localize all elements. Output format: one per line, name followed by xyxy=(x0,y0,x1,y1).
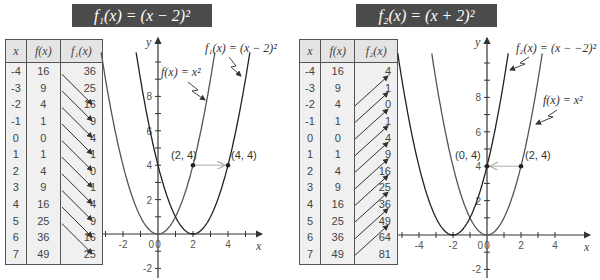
point-marker xyxy=(191,163,196,168)
x-tick-label: 2 xyxy=(518,240,524,251)
x-axis-label: x xyxy=(255,239,262,253)
mapping-arrow xyxy=(355,142,388,172)
mapping-arrow xyxy=(62,224,92,254)
mapping-arrow xyxy=(355,209,388,239)
mapping-arrow xyxy=(62,190,92,220)
mapping-arrow xyxy=(355,159,388,189)
x-tick-label: -2 xyxy=(119,239,128,250)
y-tick-label: 8 xyxy=(475,92,481,103)
shifted-curve xyxy=(398,53,508,235)
mapping-arrow xyxy=(355,109,388,139)
label-shifted: f₂(x) = (x − −2)² xyxy=(516,41,596,55)
callout-parent xyxy=(536,110,557,124)
y-axis-label: y xyxy=(145,35,152,49)
label-parent: f(x) = x² xyxy=(543,93,583,107)
mapping-arrow xyxy=(62,174,92,204)
x-axis-label: x xyxy=(583,240,590,254)
point-label-a: (0, 4) xyxy=(455,149,481,161)
x-tick-label: 0 xyxy=(484,240,490,251)
origin-label: 0 xyxy=(477,240,483,251)
y-tick-label: 4 xyxy=(475,161,481,172)
mapping-arrow xyxy=(355,93,388,123)
y-tick-label: -2 xyxy=(143,263,152,274)
mapping-arrow xyxy=(62,91,92,121)
point-marker xyxy=(485,164,490,169)
x-tick-label: -2 xyxy=(449,240,458,251)
mapping-arrow xyxy=(355,76,388,106)
mapping-arrow xyxy=(355,225,388,255)
mapping-arrow xyxy=(62,74,92,104)
y-tick-label: 6 xyxy=(475,127,481,138)
mapping-arrow xyxy=(62,207,92,237)
point-label-b: (4, 4) xyxy=(231,149,257,161)
mapping-arrow xyxy=(62,157,92,187)
point-label-b: (2, 4) xyxy=(525,149,551,161)
x-tick-label: 0 xyxy=(155,239,161,250)
callout-shifted xyxy=(229,57,241,76)
y-tick-label: 8 xyxy=(146,91,152,102)
mapping-arrow xyxy=(355,192,388,222)
graphs-overlay: -20240-22468xy(2, 4)(4, 4)f(x) = x²f₁(x)… xyxy=(0,0,600,280)
y-axis-label: y xyxy=(474,35,481,49)
mapping-arrow xyxy=(62,107,92,137)
callout-shifted xyxy=(510,57,529,70)
y-tick-label: 4 xyxy=(146,160,152,171)
x-tick-label: 4 xyxy=(552,240,558,251)
point-marker xyxy=(226,163,231,168)
point-marker xyxy=(519,164,524,169)
mapping-arrow xyxy=(62,141,92,171)
shifted-curve xyxy=(136,52,250,234)
x-tick-label: -4 xyxy=(415,240,424,251)
callout-parent xyxy=(188,82,205,100)
x-tick-label: 4 xyxy=(225,239,231,250)
origin-label: 0 xyxy=(148,239,154,250)
mapping-arrow xyxy=(355,176,388,206)
x-tick-label: 2 xyxy=(190,239,196,250)
y-tick-label: -2 xyxy=(472,264,481,275)
y-tick-label: 2 xyxy=(146,195,152,206)
mapping-arrow xyxy=(62,124,92,154)
label-parent: f(x) = x² xyxy=(161,65,201,79)
label-shifted: f₁(x) = (x − 2)² xyxy=(205,41,277,55)
mapping-arrow xyxy=(355,126,388,156)
point-label-a: (2, 4) xyxy=(171,149,197,161)
